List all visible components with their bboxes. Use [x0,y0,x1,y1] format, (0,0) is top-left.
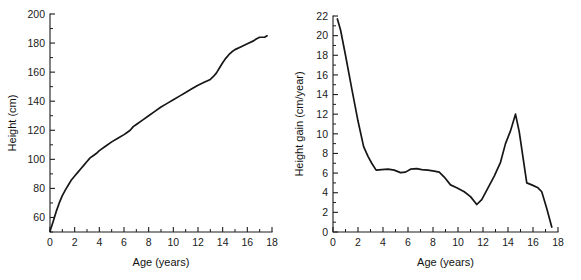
y-tick-label: 160 [27,66,45,78]
data-series-line [50,36,267,231]
y-tick-label: 10 [316,128,328,140]
y-tick-label: 180 [27,37,45,49]
x-tick-label: 2 [355,236,361,248]
x-tick-label: 2 [72,236,78,248]
y-tick-label: 6 [322,167,328,179]
x-tick-label: 8 [146,236,152,248]
x-tick-label: 0 [47,236,53,248]
x-tick-label: 14 [217,236,229,248]
y-tick-label: 12 [316,108,328,120]
x-tick-label: 4 [96,236,102,248]
x-tick-label: 10 [452,236,464,248]
y-tick-label: 120 [27,124,45,136]
data-series-line [337,19,551,227]
y-tick-label: 22 [316,10,328,22]
x-axis-title: Age (years) [417,256,474,268]
y-tick-label: 80 [33,182,45,194]
height-gain-velocity-chart: 0246810121416182022024681012141618Age (y… [290,0,581,280]
y-tick-label: 100 [27,153,45,165]
height-distance-chart: 6080100120140160180200024681012141618Age… [0,0,290,280]
chart-panel-height: 6080100120140160180200024681012141618Age… [0,0,290,280]
chart-panel-height-gain: 0246810121416182022024681012141618Age (y… [290,0,581,280]
y-tick-label: 0 [322,226,328,238]
x-tick-label: 6 [121,236,127,248]
x-tick-label: 16 [241,236,253,248]
y-tick-label: 8 [322,147,328,159]
x-tick-label: 6 [405,236,411,248]
y-tick-label: 60 [33,211,45,223]
growth-charts-figure: 6080100120140160180200024681012141618Age… [0,0,581,280]
y-tick-label: 2 [322,206,328,218]
x-axis-title: Age (years) [133,256,190,268]
x-tick-label: 18 [552,236,564,248]
x-tick-label: 4 [380,236,386,248]
y-tick-label: 20 [316,29,328,41]
y-tick-label: 140 [27,95,45,107]
x-tick-label: 14 [502,236,514,248]
y-tick-label: 18 [316,49,328,61]
x-tick-label: 8 [430,236,436,248]
y-tick-label: 4 [322,186,328,198]
x-tick-label: 18 [266,236,278,248]
axis-spine [333,16,558,232]
y-tick-label: 200 [27,8,45,20]
y-axis-title: Height (cm) [6,95,18,152]
x-tick-label: 16 [527,236,539,248]
x-tick-label: 0 [330,236,336,248]
x-tick-label: 12 [477,236,489,248]
y-tick-label: 14 [316,88,328,100]
x-tick-label: 12 [192,236,204,248]
x-tick-label: 10 [167,236,179,248]
y-tick-label: 16 [316,69,328,81]
y-axis-title: Height gain (cm/year) [293,71,305,176]
axis-spine [50,14,272,232]
